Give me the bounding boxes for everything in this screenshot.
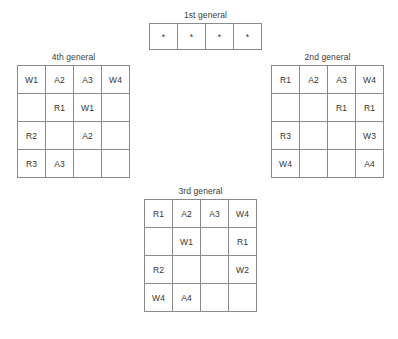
- grid-cell-filled: A4: [173, 284, 201, 312]
- grid-cell-empty: [145, 228, 173, 256]
- grid-cell-empty: [300, 150, 328, 178]
- grid-cell-label: A2: [74, 131, 101, 141]
- grid-cell-filled: R1: [229, 228, 257, 256]
- grid-block-third-general: 3rd general R1A2A3W4W1R1R2W2W4A4: [144, 186, 257, 312]
- grid-cell-star: *: [178, 24, 206, 50]
- grid-cell-empty: [46, 122, 74, 150]
- grid-cell-filled: R2: [18, 122, 46, 150]
- grid-row: R2W2: [145, 256, 257, 284]
- grid-cell-empty: [74, 150, 102, 178]
- diagram-canvas: 1st general **** 4th general W1A2A3W4R1W…: [0, 0, 398, 339]
- grid-cell-star: *: [206, 24, 234, 50]
- grid-cell-label: W4: [102, 75, 129, 85]
- grid-cell-filled: R3: [18, 150, 46, 178]
- grid-block-fourth-general: 4th general W1A2A3W4R1W1R2A2R3A3: [17, 52, 130, 178]
- grid-cell-label: R3: [18, 159, 45, 169]
- grid-cell-filled: R1: [272, 66, 300, 94]
- grid-table-second-general: R1A2A3W4R1R1R3W3W4A4: [271, 65, 384, 178]
- grid-cell-label: *: [206, 32, 233, 42]
- grid-cell-label: A2: [173, 209, 200, 219]
- grid-cell-label: *: [178, 32, 205, 42]
- grid-cell-label: R2: [18, 131, 45, 141]
- grid-row: R1A2A3W4: [272, 66, 384, 94]
- grid-row: ****: [150, 24, 262, 50]
- grid-body-first-general: ****: [150, 24, 262, 50]
- grid-row: R1W1: [18, 94, 130, 122]
- grid-cell-label: A4: [356, 159, 383, 169]
- grid-cell-label: A3: [74, 75, 101, 85]
- grid-cell-empty: [102, 94, 130, 122]
- grid-cell-label: W1: [173, 237, 200, 247]
- grid-title-second-general: 2nd general: [271, 52, 384, 63]
- grid-row: R1R1: [272, 94, 384, 122]
- grid-cell-filled: A3: [74, 66, 102, 94]
- grid-cell-label: *: [234, 32, 261, 42]
- grid-cell-empty: [173, 256, 201, 284]
- grid-table-third-general: R1A2A3W4W1R1R2W2W4A4: [144, 199, 257, 312]
- grid-cell-label: *: [150, 32, 177, 42]
- grid-cell-filled: A3: [201, 200, 229, 228]
- grid-cell-empty: [102, 150, 130, 178]
- grid-cell-filled: R1: [46, 94, 74, 122]
- grid-cell-label: R1: [46, 103, 73, 113]
- grid-cell-filled: W1: [74, 94, 102, 122]
- grid-cell-filled: W3: [356, 122, 384, 150]
- grid-title-fourth-general: 4th general: [17, 52, 130, 63]
- grid-cell-filled: A3: [328, 66, 356, 94]
- grid-row: W4A4: [145, 284, 257, 312]
- grid-cell-filled: R1: [356, 94, 384, 122]
- grid-cell-filled: W1: [18, 66, 46, 94]
- grid-cell-label: W1: [18, 75, 45, 85]
- grid-cell-label: R1: [328, 103, 355, 113]
- grid-cell-label: W4: [272, 159, 299, 169]
- grid-table-fourth-general: W1A2A3W4R1W1R2A2R3A3: [17, 65, 130, 178]
- grid-row: R2A2: [18, 122, 130, 150]
- grid-block-second-general: 2nd general R1A2A3W4R1R1R3W3W4A4: [271, 52, 384, 178]
- grid-body-second-general: R1A2A3W4R1R1R3W3W4A4: [272, 66, 384, 178]
- grid-cell-filled: W4: [145, 284, 173, 312]
- grid-cell-label: A3: [201, 209, 228, 219]
- grid-cell-filled: W2: [229, 256, 257, 284]
- grid-cell-label: A3: [328, 75, 355, 85]
- grid-cell-label: A2: [300, 75, 327, 85]
- grid-body-third-general: R1A2A3W4W1R1R2W2W4A4: [145, 200, 257, 312]
- grid-cell-label: R2: [145, 265, 172, 275]
- grid-cell-filled: R1: [328, 94, 356, 122]
- grid-cell-filled: A3: [46, 150, 74, 178]
- grid-cell-label: A3: [46, 159, 73, 169]
- grid-cell-filled: A2: [173, 200, 201, 228]
- grid-row: W4A4: [272, 150, 384, 178]
- grid-cell-label: R1: [272, 75, 299, 85]
- grid-cell-empty: [201, 228, 229, 256]
- grid-cell-filled: W4: [229, 200, 257, 228]
- grid-row: R1A2A3W4: [145, 200, 257, 228]
- grid-row: W1R1: [145, 228, 257, 256]
- grid-cell-filled: R1: [145, 200, 173, 228]
- grid-cell-filled: W1: [173, 228, 201, 256]
- grid-cell-filled: A2: [300, 66, 328, 94]
- grid-title-third-general: 3rd general: [144, 186, 257, 197]
- grid-cell-empty: [201, 284, 229, 312]
- grid-cell-label: W1: [74, 103, 101, 113]
- grid-cell-filled: W4: [102, 66, 130, 94]
- grid-cell-empty: [201, 256, 229, 284]
- grid-cell-empty: [229, 284, 257, 312]
- grid-cell-empty: [102, 122, 130, 150]
- grid-cell-empty: [272, 94, 300, 122]
- grid-cell-filled: A4: [356, 150, 384, 178]
- grid-cell-filled: R2: [145, 256, 173, 284]
- grid-cell-empty: [300, 94, 328, 122]
- grid-cell-label: R1: [229, 237, 256, 247]
- grid-cell-filled: R3: [272, 122, 300, 150]
- grid-title-first-general: 1st general: [149, 10, 262, 21]
- grid-cell-label: A4: [173, 293, 200, 303]
- grid-cell-filled: A2: [74, 122, 102, 150]
- grid-cell-empty: [328, 122, 356, 150]
- grid-cell-label: R3: [272, 131, 299, 141]
- grid-cell-filled: W4: [356, 66, 384, 94]
- grid-cell-empty: [328, 150, 356, 178]
- grid-block-first-general: 1st general ****: [149, 10, 262, 50]
- grid-cell-label: W2: [229, 265, 256, 275]
- grid-cell-star: *: [234, 24, 262, 50]
- grid-cell-label: W4: [145, 293, 172, 303]
